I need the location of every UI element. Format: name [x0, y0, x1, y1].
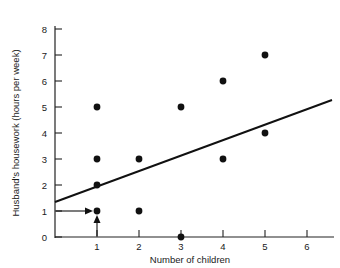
x-tick-label-2: 2 [136, 241, 141, 252]
x-tick-label-6: 6 [304, 241, 309, 252]
y-axis-title: Husband's housework (hours per week) [10, 49, 21, 216]
y-tick-label-3: 3 [42, 154, 47, 165]
plot-canvas: 8 7 6 5 4 3 2 1 0 Husband's housework (h… [0, 0, 340, 268]
data-point [94, 104, 101, 111]
x-tick-label-4: 4 [220, 241, 225, 252]
y-tick-label-1: 1 [42, 206, 47, 217]
y-axis: 8 7 6 5 4 3 2 1 0 Husband's housework (h… [10, 24, 62, 243]
x-axis-ticks [97, 230, 307, 237]
data-point [136, 208, 143, 215]
data-point-highlighted [94, 208, 101, 215]
data-points-group [94, 52, 269, 241]
x-tick-label-1: 1 [94, 241, 99, 252]
data-point [178, 104, 185, 111]
data-point [262, 130, 269, 137]
y-tick-label-6: 6 [42, 76, 47, 87]
data-point [220, 156, 227, 163]
x-axis-tick-labels: 1 2 3 4 5 6 [94, 241, 309, 252]
y-axis-tick-labels: 8 7 6 5 4 3 2 1 0 [42, 24, 47, 243]
horizontal-arrow-head-icon [85, 208, 93, 215]
x-axis-title: Number of children [150, 254, 230, 265]
y-axis-ticks [55, 29, 62, 237]
y-tick-label-7: 7 [42, 50, 47, 61]
y-tick-label-0: 0 [42, 232, 47, 243]
data-point [136, 156, 143, 163]
x-tick-label-5: 5 [262, 241, 267, 252]
y-tick-label-5: 5 [42, 102, 47, 113]
data-point [178, 234, 185, 241]
y-tick-label-2: 2 [42, 180, 47, 191]
data-point [94, 182, 101, 189]
y-tick-label-8: 8 [42, 24, 47, 35]
data-point [94, 156, 101, 163]
data-point [220, 78, 227, 85]
vertical-arrow-head-icon [94, 215, 101, 223]
x-tick-label-3: 3 [178, 241, 183, 252]
scatter-plot-figure: 8 7 6 5 4 3 2 1 0 Husband's housework (h… [0, 0, 340, 268]
data-point [262, 52, 269, 59]
y-tick-label-4: 4 [42, 128, 47, 139]
